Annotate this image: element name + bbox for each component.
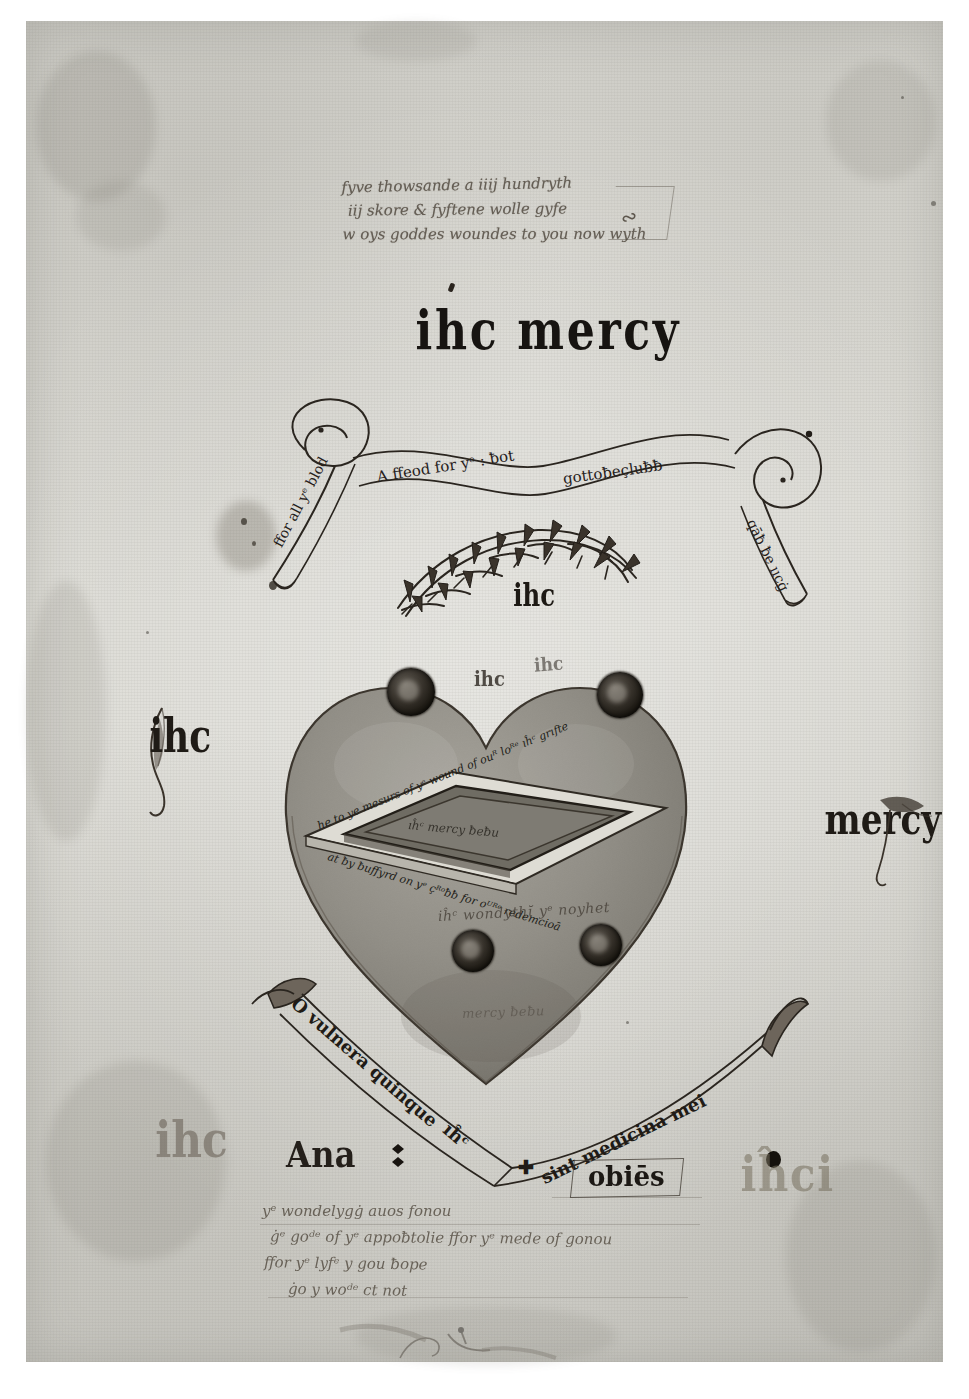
ana-paragraph-mark (392, 1143, 405, 1169)
bottom-left-faded-ihc: ihc (155, 1109, 228, 1168)
heart-ihc-left: ihc (474, 667, 505, 690)
bottom-edge-marks (330, 1306, 630, 1366)
bottom-right-faded-ihci: iĥci (740, 1145, 834, 1201)
heart-ihc-right: ihc (533, 652, 563, 676)
bottom-note-line: ġo y woᵈᵉ ct not (288, 1276, 662, 1310)
left-margin-ihc: ihc (149, 708, 211, 762)
bottom-note-line: yᵉ wondelygġ auos fonou (262, 1198, 662, 1225)
page-title: ihc mercy (416, 300, 682, 360)
side-wound-lozenge: he to ye mesurs of yᵉ wound of ouᴿ loᴿᵉ … (300, 758, 672, 898)
wound-upper-left (387, 668, 435, 716)
banner-cross-mark: ✚ (518, 1156, 534, 1178)
obies-word: obiēs (588, 1160, 665, 1192)
wound-upper-right (597, 672, 643, 718)
bottom-note-rule (268, 1297, 688, 1298)
bottom-note-rule (260, 1224, 700, 1225)
bottom-marginal-note: yᵉ wondelygġ auos fonou ġᵉ goᵈᵉ of yᵉ ap… (262, 1198, 662, 1306)
ana-word: Ana (286, 1134, 356, 1175)
manuscript-page: fyve thowsande a iiij hundryth iij skore… (0, 0, 969, 1399)
bottom-note-rule (552, 1197, 702, 1198)
right-margin-flourish (872, 786, 942, 896)
